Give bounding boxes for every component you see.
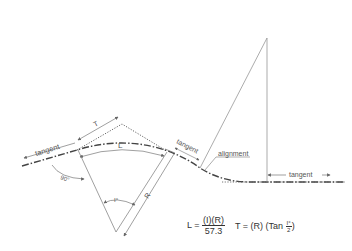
alignment-label: alignment — [218, 150, 248, 158]
right-angle-label: 90° — [60, 174, 71, 183]
tangent-mid-label: tangent — [175, 138, 199, 156]
radius-line-right — [116, 152, 167, 232]
length-formula: L = (I)(R) 57.3 — [187, 215, 225, 236]
t-label: T — [92, 119, 100, 128]
tangent-right-label: tangent — [289, 171, 312, 179]
triangle-hypotenuse — [200, 38, 267, 168]
tangent-formula: T = (R) (Tan I° 2 ) — [235, 220, 295, 233]
t-dimension-line — [78, 117, 118, 140]
tangent-formula-close: ) — [292, 221, 295, 231]
i-angle-arc — [104, 200, 135, 205]
tangent-left-label: tangent — [34, 142, 61, 158]
length-numerator: (I)(R) — [202, 215, 225, 226]
length-formula-fraction: (I)(R) 57.3 — [202, 215, 225, 236]
radius-line-left — [78, 150, 116, 232]
tangent-formula-lhs: T = (R) (Tan — [235, 221, 283, 231]
l-label: L — [118, 141, 123, 150]
alignment-leader — [205, 157, 216, 170]
i-angle-label: I° — [114, 197, 119, 203]
curve-diagram: T tangent L R I° 90° tangent alignment t… — [0, 0, 352, 251]
length-denominator: 57.3 — [205, 226, 223, 236]
l-arc-dimension — [80, 150, 164, 157]
tangent-denominator: 2 — [287, 227, 290, 233]
length-formula-lhs: L = — [187, 220, 199, 230]
